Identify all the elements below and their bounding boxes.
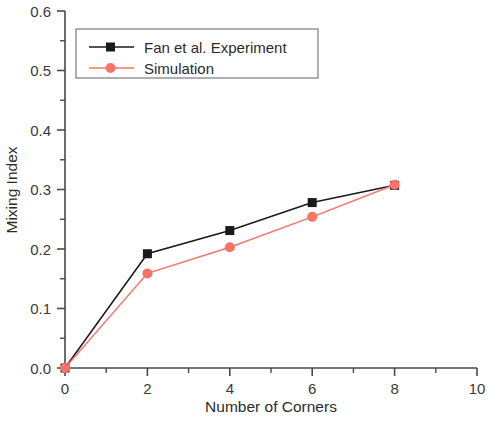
data-point-marker — [143, 249, 152, 258]
y-tick-label: 0.2 — [30, 241, 51, 258]
data-point-marker — [307, 212, 317, 222]
y-tick-label: 0.0 — [30, 360, 51, 377]
y-tick-label: 0.6 — [30, 3, 51, 20]
data-point-marker — [308, 198, 317, 207]
x-tick-label: 6 — [308, 380, 316, 397]
y-tick-label: 0.5 — [30, 62, 51, 79]
y-tick-label: 0.3 — [30, 181, 51, 198]
x-tick-label: 0 — [61, 380, 69, 397]
x-tick-label: 10 — [469, 380, 486, 397]
chart-container: 0.00.10.20.30.40.50.6 0246810 Number of … — [0, 0, 488, 421]
data-point-marker — [225, 242, 235, 252]
y-tick-label: 0.4 — [30, 122, 51, 139]
data-point-marker — [225, 226, 234, 235]
legend-label-simulation: Simulation — [144, 60, 214, 77]
circle-marker-icon — [106, 63, 116, 73]
data-point-marker — [60, 363, 70, 373]
x-tick-label: 4 — [226, 380, 234, 397]
y-tick-label: 0.1 — [30, 300, 51, 317]
x-tick-label: 2 — [143, 380, 151, 397]
data-point-marker — [390, 180, 400, 190]
data-point-marker — [142, 268, 152, 278]
x-tick-label: 8 — [390, 380, 398, 397]
x-axis-title: Number of Corners — [205, 398, 337, 415]
mixing-index-line-chart: 0.00.10.20.30.40.50.6 0246810 Number of … — [0, 0, 488, 421]
y-axis-title: Mixing Index — [3, 146, 20, 233]
square-marker-icon — [106, 43, 115, 52]
legend-label-experiment: Fan et al. Experiment — [144, 39, 287, 56]
chart-legend[interactable]: Fan et al. Experiment Simulation — [76, 29, 318, 78]
